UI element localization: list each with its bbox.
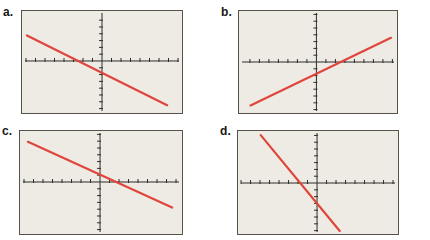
plotted-line <box>27 35 167 105</box>
choice-label-b: b. <box>221 5 232 19</box>
choice-label-a: a. <box>3 5 13 19</box>
graph-screen-b <box>239 11 397 113</box>
calculator-graph-d <box>237 130 399 235</box>
calculator-graph-a <box>21 10 183 114</box>
graph-screen-a <box>22 11 182 113</box>
calculator-graph-c <box>19 130 183 235</box>
choice-label-d: d. <box>220 124 231 138</box>
choice-label-c: c. <box>2 124 12 138</box>
plotted-line <box>251 38 391 106</box>
calculator-graph-b <box>238 10 398 114</box>
graph-screen-c <box>20 131 182 234</box>
graph-screen-d <box>238 131 398 234</box>
